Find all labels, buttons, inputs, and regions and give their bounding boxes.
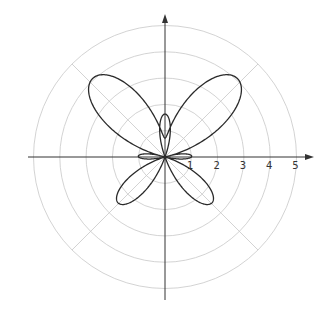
- radial-tick-label: 2: [213, 160, 219, 171]
- x-axis-arrow-icon: [305, 154, 314, 160]
- radial-tick-label: 5: [292, 160, 298, 171]
- radial-tick-label: 4: [266, 160, 272, 171]
- y-axis-arrow-icon: [162, 14, 168, 23]
- radial-tick-labels: 12345: [187, 160, 299, 171]
- radial-tick-label: 3: [240, 160, 246, 171]
- polar-chart: 12345: [0, 0, 326, 314]
- axes: [28, 14, 314, 300]
